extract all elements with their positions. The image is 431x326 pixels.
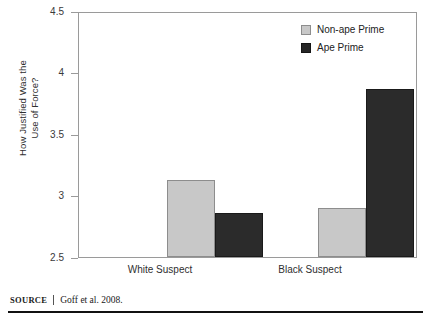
source-label: Source (10, 295, 53, 305)
y-tick-label-4.5: 4.5 (50, 6, 64, 18)
y-tick-label-4: 4 (58, 67, 64, 79)
plot-area: Non-ape Prime Ape Prime (78, 12, 417, 258)
legend: Non-ape Prime Ape Prime (301, 22, 421, 58)
y-tick-label-3: 3 (58, 190, 64, 202)
x-axis-label-black-suspect: Black Suspect (260, 263, 360, 276)
y-tick-mark-2.5 (71, 258, 78, 259)
legend-label-ape-prime: Ape Prime (317, 42, 364, 54)
y-tick-label-3.5: 3.5 (50, 129, 64, 141)
bar-black-suspect-non-ape-prime (318, 208, 366, 257)
legend-swatch-icon-non-ape-prime (301, 25, 311, 35)
legend-label-non-ape-prime: Non-ape Prime (317, 24, 384, 36)
y-tick-mark-3 (71, 196, 78, 197)
y-tick-label-2.5: 2.5 (50, 252, 64, 264)
y-tick-mark-4 (71, 73, 78, 74)
legend-item-ape-prime: Ape Prime (301, 40, 421, 56)
y-tick-mark-3.5 (71, 135, 78, 136)
legend-item-non-ape-prime: Non-ape Prime (301, 22, 421, 38)
legend-swatch-icon-ape-prime (301, 43, 311, 53)
x-axis-label-white-suspect: White Suspect (110, 263, 210, 276)
bottom-rule (8, 311, 423, 313)
y-axis: 4.5 4 3.5 3 2.5 (0, 0, 78, 326)
source-note: Source Goff et al. 2008. (10, 295, 123, 305)
source-citation: Goff et al. 2008. (60, 295, 122, 305)
bar-white-suspect-non-ape-prime (167, 180, 215, 257)
bar-white-suspect-ape-prime (215, 213, 263, 257)
figure-container: How Justified Was the Use of Force? 4.5 … (0, 0, 431, 326)
y-tick-mark-4.5 (71, 12, 78, 13)
source-divider (53, 295, 54, 305)
bar-black-suspect-ape-prime (366, 89, 414, 257)
